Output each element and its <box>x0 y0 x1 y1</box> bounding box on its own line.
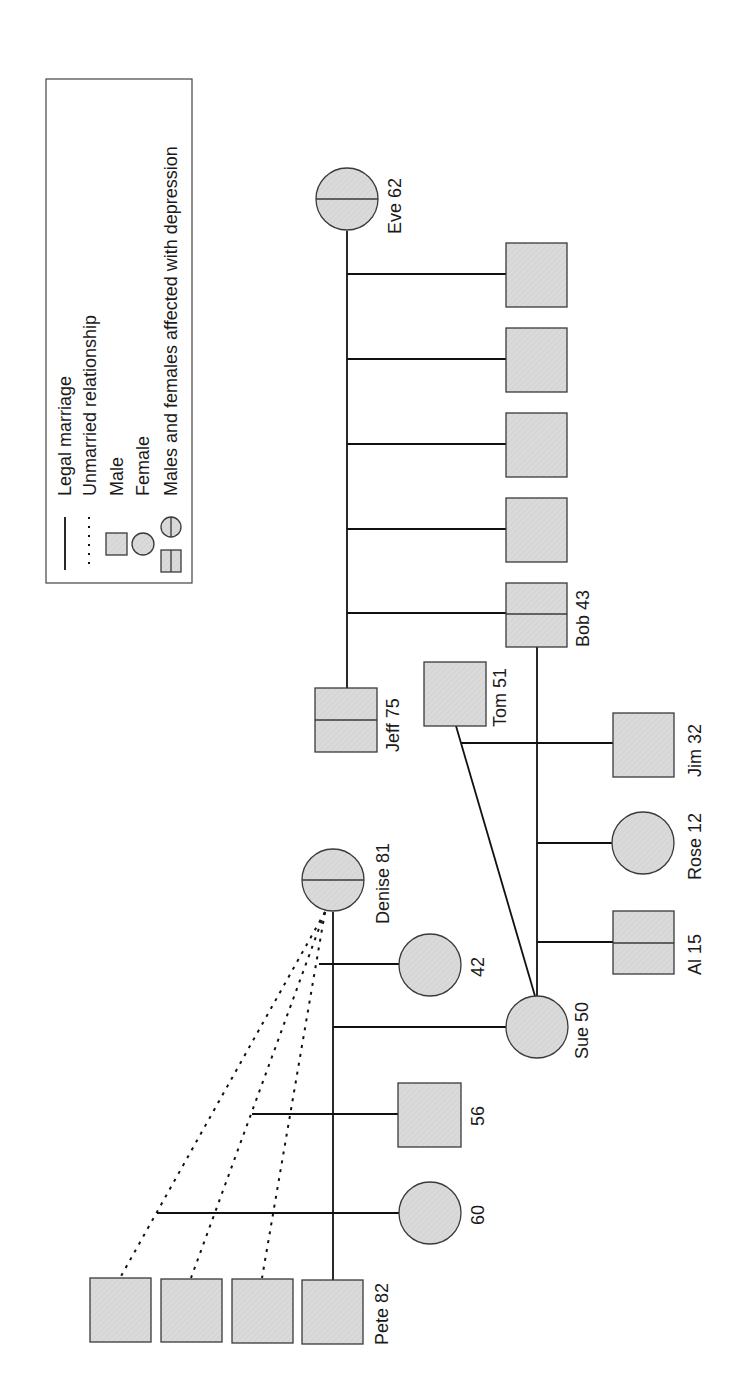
female-icon <box>399 1182 461 1244</box>
person-label: Jim 32 <box>685 724 705 777</box>
legend-label-affected: Males and females affected with depressi… <box>161 146 181 496</box>
marriage-line-tom-sue <box>456 726 535 996</box>
female-icon <box>506 996 568 1058</box>
person-p1 male-icon <box>90 1278 151 1342</box>
female-icon <box>399 934 461 996</box>
legend: Legal marriage Unmarried relationship Ma… <box>46 79 192 583</box>
unmarried-line-denise-p1 <box>120 912 325 1278</box>
unmarried-line-denise-p2 <box>191 912 325 1278</box>
male-affected-icon <box>506 583 567 647</box>
person-p2 male-icon <box>161 1279 222 1342</box>
male-icon <box>398 1083 461 1147</box>
person-56: 56 <box>398 1083 488 1147</box>
person-label: Rose 12 <box>685 813 705 880</box>
person-label: 56 <box>468 1106 488 1126</box>
male-icon <box>424 662 486 726</box>
person-label: Denise 81 <box>373 843 393 924</box>
female-icon <box>612 812 674 874</box>
person-p3 male-icon <box>232 1279 293 1343</box>
person-label: Sue 50 <box>572 1002 592 1059</box>
legend-label-unmarried-relationship: Unmarried relationship <box>80 315 100 496</box>
person-eve: Eve 62 <box>316 168 405 234</box>
legend-affected-circle-icon <box>161 517 181 537</box>
person-c4 male-icon <box>506 498 567 562</box>
person-bob: Bob 43 <box>506 583 593 647</box>
person-label: Al 15 <box>685 934 705 975</box>
person-label: 60 <box>468 1205 488 1225</box>
person-pete: Pete 82 <box>302 1280 392 1345</box>
person-rose: Rose 12 <box>612 812 705 880</box>
male-icon <box>302 1280 363 1344</box>
person-42: 42 <box>399 934 488 996</box>
person-jeff: Jeff 75 <box>315 688 403 752</box>
person-c3 male-icon <box>506 413 567 477</box>
person-label: Bob 43 <box>573 590 593 647</box>
person-label: 42 <box>468 957 488 977</box>
person-jim: Jim 32 <box>613 713 705 777</box>
person-label: Eve 62 <box>385 178 405 234</box>
legend-label-male: Male <box>107 457 127 496</box>
legend-label-female: Female <box>133 436 153 496</box>
person-label: Pete 82 <box>372 1283 392 1345</box>
legend-affected-square-icon <box>161 550 181 572</box>
person-label: Tom 51 <box>490 668 510 727</box>
person-60: 60 <box>399 1182 488 1244</box>
legend-female-circle-icon <box>132 533 154 555</box>
person-c2 male-icon <box>506 328 567 392</box>
legend-male-square-icon <box>106 533 127 555</box>
person-sue: Sue 50 <box>506 996 592 1059</box>
male-icon <box>613 713 674 777</box>
person-c1 male-icon <box>506 243 567 307</box>
person-al: Al 15 <box>613 911 705 975</box>
genogram-diagram: Legal marriage Unmarried relationship Ma… <box>0 0 734 1397</box>
person-label: Jeff 75 <box>383 698 403 752</box>
person-denise: Denise 81 <box>302 843 393 924</box>
person-tom: Tom 51 <box>424 662 510 727</box>
legend-label-legal-marriage: Legal marriage <box>55 376 75 496</box>
